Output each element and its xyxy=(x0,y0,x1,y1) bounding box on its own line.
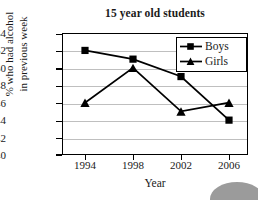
legend-label-girls: Girls xyxy=(205,55,228,68)
x-tick-label: 1998 xyxy=(113,160,153,171)
y-tick-label: 40 xyxy=(0,150,6,161)
legend-label-boys: Boys xyxy=(205,40,229,53)
y-tick-mark xyxy=(56,34,62,35)
y-tick-label: 42 xyxy=(0,133,6,144)
y-tick-mark xyxy=(56,121,62,122)
y-tick-mark xyxy=(56,68,62,69)
x-tick-label: 1994 xyxy=(65,160,105,171)
y-axis-label-line-2: in previous week xyxy=(16,16,30,91)
y-tick-label: 50 xyxy=(0,63,6,74)
x-tick-label: 2006 xyxy=(209,160,249,171)
y-tick-label: 54 xyxy=(0,28,6,39)
y-tick-mark xyxy=(56,86,62,87)
legend-item-boys[interactable]: Boys xyxy=(180,39,243,54)
x-tick-label: 2002 xyxy=(161,160,201,171)
chart-title: 15 year old students xyxy=(60,7,250,20)
y-tick-mark xyxy=(56,154,62,155)
y-tick-label: 44 xyxy=(0,115,6,126)
gridline xyxy=(63,139,247,140)
y-tick-label: 48 xyxy=(0,80,6,91)
legend: Boys Girls xyxy=(176,37,247,72)
square-marker-icon xyxy=(180,40,202,53)
triangle-marker-icon xyxy=(180,55,202,68)
y-tick-mark xyxy=(56,138,62,139)
y-tick-mark xyxy=(56,103,62,104)
y-tick-label: 52 xyxy=(0,45,6,56)
gridline xyxy=(63,86,247,87)
legend-item-girls[interactable]: Girls xyxy=(180,54,243,69)
y-tick-label: 46 xyxy=(0,98,6,109)
y-tick-mark xyxy=(56,51,62,52)
gridline xyxy=(63,104,247,105)
y-axis-label-stack: % who had alcohol in previous week xyxy=(2,12,30,97)
chart-figure: 15 year old students % who had alcohol i… xyxy=(0,0,258,200)
gridline xyxy=(63,121,247,122)
